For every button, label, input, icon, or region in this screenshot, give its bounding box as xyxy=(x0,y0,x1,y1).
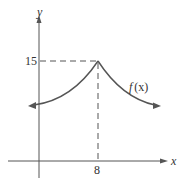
function-label: f(x) xyxy=(129,80,148,94)
left-arrow-icon xyxy=(28,102,36,109)
right-arrow-icon xyxy=(153,103,161,110)
x-axis-label: x xyxy=(170,154,177,168)
graph: y x 15 8 f(x) xyxy=(0,0,180,181)
x-axis-arrow-icon xyxy=(160,159,168,164)
y-axis-label: y xyxy=(36,5,43,19)
x-tick-8: 8 xyxy=(94,163,100,177)
function-curve-left xyxy=(34,61,98,105)
y-tick-15: 15 xyxy=(25,54,37,68)
